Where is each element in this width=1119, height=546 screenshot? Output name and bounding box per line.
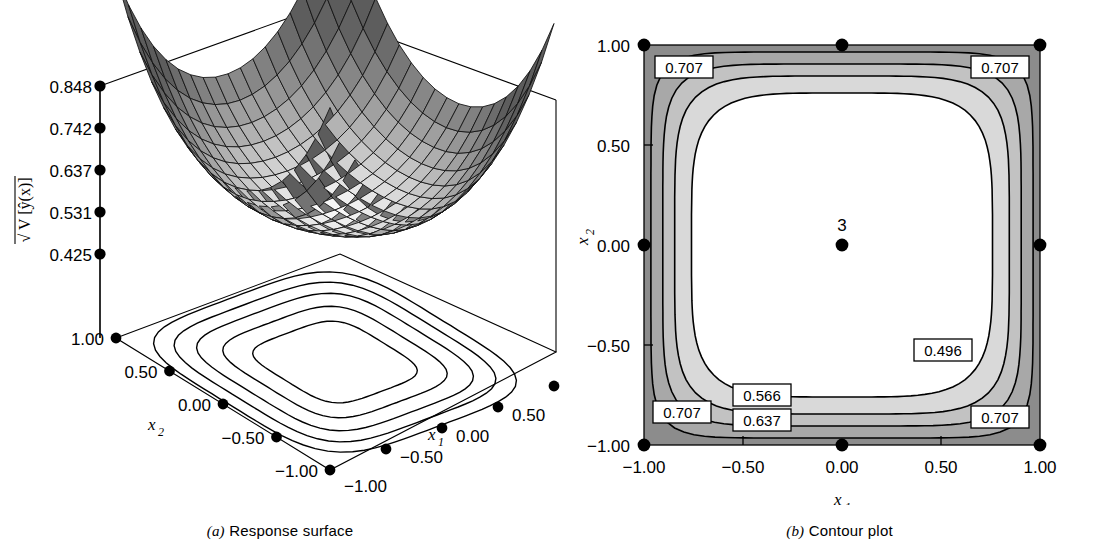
panel-b-caption: (b) Contour plot [560,522,1119,540]
x1-tick-label: 0.50 [512,406,545,425]
panel-response-surface: 0.8480.7420.6370.5310.425√ V [ŷ(x)]1.000… [0,0,560,546]
contour-label-top-left: 0.707 [655,56,713,78]
svg-text:0.707: 0.707 [981,59,1019,76]
contour-x1-tick-label: 1.00 [1023,458,1056,477]
contour-x2-tick-label: −1.00 [587,437,630,456]
panel-b-caption-text: Contour plot [809,522,893,539]
svg-text:x: x [573,237,592,246]
svg-text:1: 1 [845,500,851,505]
z-tick-label: 0.637 [49,162,92,181]
design-point [638,439,651,452]
svg-text:0.637: 0.637 [743,412,781,429]
contour-x2-tick-label: 1.00 [597,37,630,56]
svg-text:0.707: 0.707 [981,409,1019,426]
contour-x1-tick-label: −0.50 [721,458,764,477]
x2-tick-label: 1.00 [71,330,104,349]
contour-x2-axis-name: x2 [573,229,597,246]
contour-x2-tick-label: −0.50 [587,337,630,356]
response-surface-plot: 0.8480.7420.6370.5310.425√ V [ŷ(x)]1.000… [0,0,560,505]
panel-a-caption-text: Response surface [229,522,353,539]
design-point [1034,239,1047,252]
z-tick-label: 0.531 [49,204,92,223]
design-point [1034,39,1047,52]
svg-text:2: 2 [158,425,164,439]
contour-label-0566: 0.566 [733,384,791,406]
svg-text:x: x [147,415,156,434]
panel-a-caption-tag: (a) [207,523,225,539]
x2-axis-name: x2 [147,415,164,439]
x2-tick-label: −1.00 [275,462,318,481]
contour-label-0637: 0.637 [733,409,791,431]
svg-text:0.496: 0.496 [924,342,962,359]
design-point [638,39,651,52]
svg-text:0.707: 0.707 [665,59,703,76]
svg-text:0.566: 0.566 [743,387,781,404]
base-plane [111,254,560,475]
contour-x1-tick-label: 0.50 [924,458,957,477]
x2-tick-label: 0.00 [178,396,211,415]
design-point [638,239,651,252]
svg-text:√ V [ŷ(x)]: √ V [ŷ(x)] [16,177,34,242]
contour-label-bottom-right: 0.707 [971,406,1029,428]
contour-label-bottom-left: 0.707 [653,401,711,423]
design-point [836,239,849,252]
z-axis [94,80,105,338]
z-tick-label: 0.742 [49,120,92,139]
contour-x2-tick-label: 0.00 [597,237,630,256]
x1-tick-label: −1.00 [344,477,387,496]
design-point [836,439,849,452]
contour-x1-tick-label: 0.00 [825,458,858,477]
design-point [1034,439,1047,452]
x2-tick-label: 0.50 [124,363,157,382]
contour-plot: 1.000.500.00−0.50−1.00−1.00−0.500.000.50… [560,0,1119,505]
figure-response-surface-and-contour: 0.8480.7420.6370.5310.425√ V [ŷ(x)]1.000… [0,0,1119,546]
panel-a-caption: (a) Response surface [0,522,560,540]
x1-tick-label: 0.00 [456,427,489,446]
panel-contour-plot: 1.000.500.00−0.50−1.00−1.00−0.500.000.50… [560,0,1119,546]
z-tick-label: 0.425 [49,246,92,265]
z-tick-label: 0.848 [49,78,92,97]
contour-label-top-right: 0.707 [971,56,1029,78]
surface-mesh [116,0,554,237]
panel-b-caption-tag: (b) [786,523,804,539]
design-point [836,39,849,52]
contour-x1-tick-label: −1.00 [622,458,665,477]
svg-text:0.707: 0.707 [663,404,701,421]
svg-text:x: x [427,425,436,444]
contour-label-0496: 0.496 [914,339,972,361]
contour-x2-tick-label: 0.50 [597,137,630,156]
svg-text:1: 1 [438,435,444,449]
z-axis-label: √ V [ŷ(x)] [15,176,34,244]
x2-tick-label: −0.50 [221,429,264,448]
center-runs-label: 3 [837,216,846,235]
x1-tick-label: −0.50 [400,448,443,467]
svg-text:2: 2 [583,229,597,235]
contour-x1-axis-name: x1 [833,490,851,505]
svg-text:x: x [833,490,842,505]
